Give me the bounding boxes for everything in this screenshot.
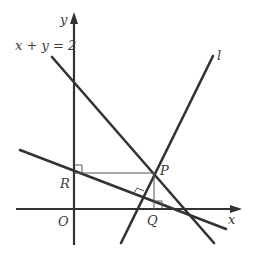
line-x-plus-y-label: x + y = 2	[15, 38, 76, 53]
line-l-label: l	[217, 48, 221, 63]
origin-label: O	[58, 214, 69, 229]
geometry-figure: y x O x + y = 2 l P Q R	[0, 0, 253, 261]
line-through-R	[20, 150, 226, 229]
line-l	[121, 56, 213, 243]
point-P-label: P	[159, 163, 169, 178]
point-Q-label: Q	[147, 213, 158, 228]
x-axis-label: x	[228, 212, 236, 227]
y-axis-arrow-icon	[70, 12, 78, 24]
y-axis-label: y	[59, 12, 68, 27]
x-axis	[16, 205, 242, 213]
point-R-label: R	[59, 176, 70, 191]
